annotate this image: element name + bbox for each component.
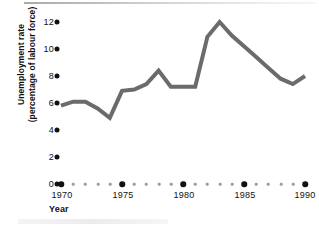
x-tick-dot-1980: [180, 181, 186, 187]
x-tick-dot-1979: [170, 183, 173, 186]
x-tick-dot-1971: [72, 183, 75, 186]
x-tick-dot-1982: [206, 183, 209, 186]
x-tick-dot-1988: [280, 183, 283, 186]
x-tick-dot-1974: [109, 183, 112, 186]
x-tick-dot-1975: [119, 181, 125, 187]
x-tick-label-1970: 1970: [52, 190, 73, 200]
x-tick-label-1985: 1985: [235, 190, 256, 200]
unemployment-rate-line-chart: Unemployment rate (percentage of labour …: [0, 0, 319, 228]
x-tick-dot-1984: [231, 183, 234, 186]
x-tick-label-1990: 1990: [295, 190, 316, 200]
x-tick-dot-1986: [255, 183, 258, 186]
x-tick-dot-1983: [219, 183, 222, 186]
x-tick-dot-1972: [84, 183, 87, 186]
x-tick-dot-1977: [145, 183, 148, 186]
x-tick-dot-1978: [158, 183, 161, 186]
x-tick-dot-1990: [302, 181, 308, 187]
x-tick-dot-1973: [97, 183, 100, 186]
x-axis-title: Year: [49, 204, 69, 214]
page-bottom-smudge: [18, 219, 168, 224]
x-tick-label-1980: 1980: [174, 190, 195, 200]
x-tick-dot-1989: [292, 183, 295, 186]
x-tick-dot-1987: [267, 183, 270, 186]
x-tick-dot-1981: [194, 183, 197, 186]
unemployment-rate-line: [61, 22, 305, 118]
x-tick-dot-1985: [241, 181, 247, 187]
x-tick-dot-1970: [58, 181, 64, 187]
plot-area: [0, 0, 319, 228]
x-tick-label-1975: 1975: [113, 190, 134, 200]
x-tick-dot-1976: [133, 183, 136, 186]
